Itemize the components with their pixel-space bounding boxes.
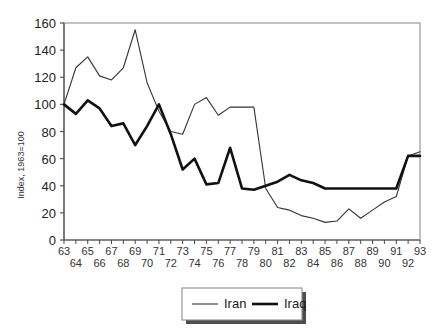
x-tick-label: 64 — [70, 257, 82, 269]
x-tick-label: 72 — [165, 257, 177, 269]
x-tick-label: 83 — [295, 245, 307, 257]
y-axis-title: Index, 1963=100 — [16, 131, 26, 198]
x-tick-label: 77 — [224, 245, 236, 257]
x-tick-label: 82 — [283, 257, 295, 269]
x-tick-label: 92 — [402, 257, 414, 269]
x-tick-label: 66 — [93, 257, 105, 269]
y-tick-label: 160 — [34, 16, 56, 31]
x-tick-label: 87 — [343, 245, 355, 257]
x-tick-label: 74 — [188, 257, 200, 269]
y-tick-label: 100 — [34, 97, 56, 112]
x-tick-label: 76 — [212, 257, 224, 269]
x-tick-label: 88 — [355, 257, 367, 269]
x-tick-label: 71 — [153, 245, 165, 257]
y-axis-tick-labels: 020406080100120140160 — [34, 16, 56, 248]
y-tick-label: 80 — [42, 125, 56, 140]
x-tick-label: 84 — [307, 257, 319, 269]
legend: Iran Iraq — [182, 288, 306, 324]
plot-frame — [64, 23, 420, 240]
legend-label-iraq: Iraq — [284, 296, 306, 311]
series-lines — [64, 30, 420, 223]
x-tick-label: 78 — [236, 257, 248, 269]
x-tick-label: 79 — [248, 245, 260, 257]
x-tick-label: 65 — [82, 245, 94, 257]
x-tick-label: 86 — [331, 257, 343, 269]
x-tick-label: 81 — [271, 245, 283, 257]
x-axis-tick-marks — [64, 240, 420, 244]
x-tick-label: 90 — [378, 257, 390, 269]
series-line-iraq — [64, 100, 420, 190]
x-tick-label: 91 — [390, 245, 402, 257]
x-tick-label: 63 — [58, 245, 70, 257]
legend-label-iran: Iran — [224, 296, 246, 311]
y-tick-label: 20 — [42, 206, 56, 221]
x-tick-label: 93 — [414, 245, 426, 257]
x-tick-label: 89 — [366, 245, 378, 257]
x-tick-label: 67 — [105, 245, 117, 257]
x-tick-label: 85 — [319, 245, 331, 257]
x-tick-label: 70 — [141, 257, 153, 269]
line-chart: 020406080100120140160 636465666768697071… — [0, 0, 441, 330]
x-tick-label: 73 — [177, 245, 189, 257]
x-axis-tick-labels: 6364656667686970717273747576777879808182… — [58, 245, 426, 269]
y-tick-label: 60 — [42, 152, 56, 167]
y-tick-label: 120 — [34, 70, 56, 85]
series-line-iran — [64, 30, 420, 223]
y-tick-label: 40 — [42, 179, 56, 194]
chart-container: 020406080100120140160 636465666768697071… — [0, 0, 441, 330]
x-tick-label: 80 — [260, 257, 272, 269]
y-tick-label: 0 — [49, 233, 56, 248]
x-tick-label: 69 — [129, 245, 141, 257]
y-tick-label: 140 — [34, 43, 56, 58]
x-tick-label: 68 — [117, 257, 129, 269]
x-tick-label: 75 — [200, 245, 212, 257]
